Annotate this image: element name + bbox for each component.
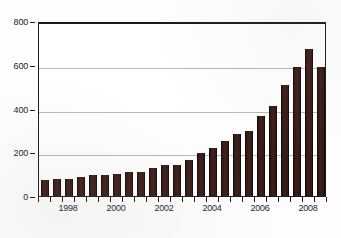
bar (293, 67, 300, 196)
x-tick-label: 2006 (250, 203, 269, 213)
bar (221, 141, 228, 196)
bar (113, 174, 120, 196)
y-tick-label: 200 (14, 148, 28, 158)
bar (257, 116, 264, 196)
x-tick-label: 2008 (298, 203, 317, 213)
x-tick-mark (290, 197, 291, 202)
bar (173, 165, 180, 196)
x-tick-mark (182, 197, 183, 202)
x-tick-mark (194, 197, 195, 202)
bar (269, 106, 276, 196)
bar (233, 134, 240, 196)
y-tick-mark (30, 66, 35, 67)
x-tick-label: 2000 (106, 203, 125, 213)
x-tick-mark (122, 197, 123, 202)
bar (209, 148, 216, 196)
y-tick-mark (30, 22, 35, 23)
y-tick-label: 800 (14, 17, 28, 27)
x-tick-mark (50, 197, 51, 202)
bar (41, 180, 48, 196)
x-tick-label: 1998 (58, 203, 77, 213)
x-tick-mark (86, 197, 87, 202)
x-tick-mark (134, 197, 135, 202)
x-tick-mark (98, 197, 99, 202)
bar-series (39, 24, 325, 196)
bar (65, 179, 72, 197)
y-tick-mark (30, 110, 35, 111)
x-tick-mark (326, 197, 327, 202)
x-tick-mark (302, 197, 303, 202)
x-tick-mark (242, 197, 243, 202)
x-tick-mark (218, 197, 219, 202)
x-tick-mark (206, 197, 207, 202)
y-tick-label: 600 (14, 61, 28, 71)
y-tick-label: 0 (23, 192, 28, 202)
x-axis: 199820002002200420062008 (38, 203, 326, 219)
y-axis: 0200400600800 (0, 0, 36, 238)
x-tick-mark (158, 197, 159, 202)
bar (245, 131, 252, 196)
bar-chart: 0200400600800 199820002002200420062008 (0, 0, 341, 238)
x-tick-mark (38, 197, 39, 202)
bar (185, 160, 192, 196)
x-tick-mark (254, 197, 255, 202)
x-tick-label: 2004 (202, 203, 221, 213)
bar (197, 153, 204, 196)
bar (281, 85, 288, 196)
bar (125, 172, 132, 196)
bar (305, 49, 312, 196)
x-tick-mark (266, 197, 267, 202)
x-tick-mark (146, 197, 147, 202)
x-tick-mark (314, 197, 315, 202)
bar (53, 179, 60, 197)
x-tick-mark (278, 197, 279, 202)
x-tick-label: 2002 (154, 203, 173, 213)
bar (161, 165, 168, 196)
y-tick-label: 400 (14, 105, 28, 115)
bar (101, 175, 108, 196)
x-tick-mark (170, 197, 171, 202)
y-tick-mark (30, 153, 35, 154)
bar (317, 67, 324, 196)
y-tick-mark (30, 197, 35, 198)
x-tick-mark (62, 197, 63, 202)
x-tick-mark (110, 197, 111, 202)
bar (149, 168, 156, 196)
x-tick-mark (74, 197, 75, 202)
bar (137, 172, 144, 196)
x-tick-mark (230, 197, 231, 202)
bar (89, 175, 96, 196)
bar (77, 177, 84, 196)
plot-area (38, 22, 326, 197)
